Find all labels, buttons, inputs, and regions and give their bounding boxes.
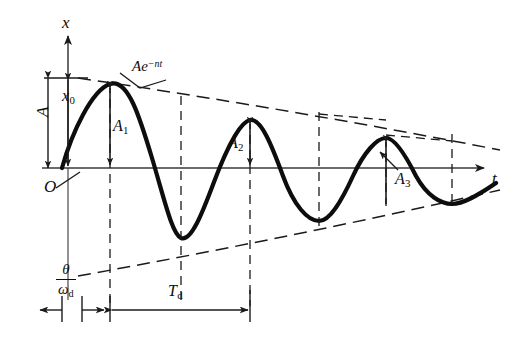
connector-upper-right [386, 135, 452, 141]
connector-trough-right [319, 114, 386, 120]
Td-base: T [168, 282, 177, 299]
omega-base: ω [58, 281, 69, 297]
figure-canvas [0, 0, 524, 355]
axes-group [42, 36, 484, 300]
A2-subscript: 2 [238, 141, 244, 153]
phase-time-fraction: θ ωd [56, 262, 76, 299]
amplitude-3-label: A3 [395, 171, 411, 189]
lower-envelope-curve [78, 190, 500, 276]
A2-base: A [228, 134, 238, 151]
fraction-denominator: ωd [56, 281, 76, 299]
x-axis-label: t [492, 170, 497, 187]
damped-oscillation-curve [62, 83, 496, 238]
origin-label: O [44, 178, 56, 195]
period-label: Td [168, 283, 183, 301]
amplitude-A-label: A [34, 107, 51, 117]
envelope-equation-label: Ae−nt [132, 59, 162, 74]
initial-displacement-label: x0 [62, 88, 75, 106]
amplitude-2-label: A2 [228, 135, 244, 153]
A3-subscript: 3 [405, 177, 411, 189]
fraction-bar [56, 279, 76, 280]
amplitude-arrows-group [110, 88, 386, 204]
omega-subscript: d [69, 288, 74, 299]
envelope-base: Ae [132, 58, 148, 74]
damped-oscillation-figure: x t O A x0 Ae−nt A1 A2 A3 Td θ ωd [0, 0, 524, 355]
A1-subscript: 1 [123, 124, 129, 136]
A1-base: A [113, 117, 123, 134]
envelope-exponent: −nt [148, 58, 162, 69]
Td-subscript: d [177, 289, 183, 301]
envelope-group [78, 78, 500, 276]
y-axis-label: x [62, 14, 70, 31]
A3-base: A [395, 170, 405, 187]
amplitude-1-label: A1 [113, 118, 129, 136]
x0-subscript: 0 [69, 94, 75, 106]
fraction-numerator: θ [56, 262, 76, 278]
